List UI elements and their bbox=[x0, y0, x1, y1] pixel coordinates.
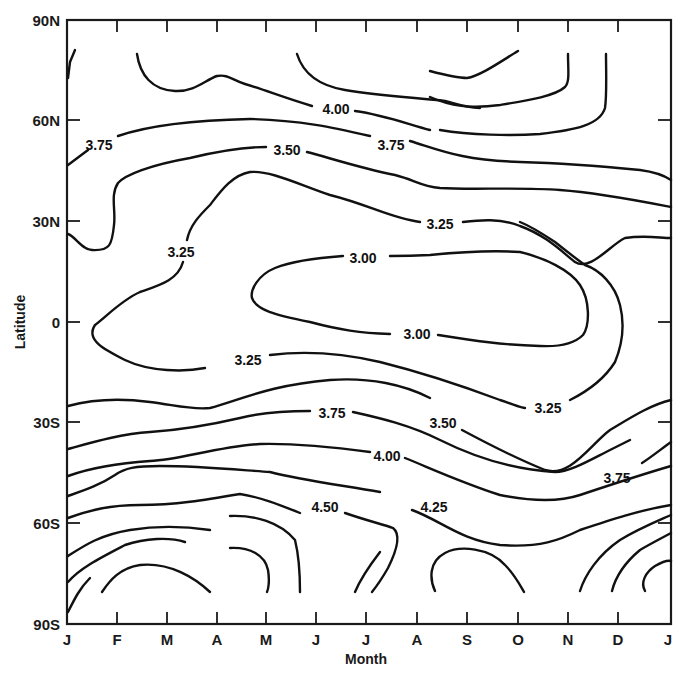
svg-text:60N: 60N bbox=[32, 112, 60, 129]
svg-text:S: S bbox=[462, 631, 472, 648]
svg-text:J: J bbox=[362, 631, 370, 648]
svg-text:3.25: 3.25 bbox=[234, 352, 261, 368]
x-tick-labels: J F M A M J J A S O N D J bbox=[63, 631, 672, 648]
svg-text:90S: 90S bbox=[33, 616, 60, 633]
svg-text:90N: 90N bbox=[32, 12, 60, 29]
svg-text:3.00: 3.00 bbox=[403, 326, 430, 342]
y-ticks bbox=[67, 120, 671, 523]
svg-text:3.00: 3.00 bbox=[349, 250, 376, 266]
plot-frame bbox=[67, 20, 671, 624]
svg-text:3.75: 3.75 bbox=[85, 137, 112, 153]
svg-text:30N: 30N bbox=[32, 213, 60, 230]
svg-text:O: O bbox=[512, 631, 524, 648]
svg-text:3.75: 3.75 bbox=[603, 470, 630, 486]
svg-text:M: M bbox=[260, 631, 273, 648]
svg-text:60S: 60S bbox=[33, 515, 60, 532]
svg-text:A: A bbox=[212, 631, 223, 648]
svg-text:3.25: 3.25 bbox=[426, 216, 453, 232]
svg-text:F: F bbox=[112, 631, 121, 648]
svg-text:4.25: 4.25 bbox=[420, 499, 447, 515]
svg-text:J: J bbox=[312, 631, 320, 648]
svg-text:D: D bbox=[613, 631, 624, 648]
svg-text:M: M bbox=[161, 631, 174, 648]
x-axis-title: Month bbox=[345, 651, 387, 667]
svg-text:3.75: 3.75 bbox=[318, 405, 345, 421]
svg-text:3.25: 3.25 bbox=[167, 244, 194, 260]
svg-text:3.50: 3.50 bbox=[429, 415, 456, 431]
contour-lines bbox=[68, 50, 671, 612]
svg-text:J: J bbox=[664, 631, 672, 648]
svg-text:30S: 30S bbox=[33, 414, 60, 431]
svg-text:3.50: 3.50 bbox=[273, 142, 300, 158]
svg-text:4.00: 4.00 bbox=[373, 448, 400, 464]
svg-text:N: N bbox=[563, 631, 574, 648]
svg-text:3.75: 3.75 bbox=[377, 137, 404, 153]
y-axis-title: Latitude bbox=[12, 295, 28, 350]
x-ticks bbox=[117, 20, 618, 624]
svg-text:0: 0 bbox=[52, 314, 60, 331]
y-tick-labels: 90N 60N 30N 0 30S 60S 90S bbox=[32, 12, 60, 633]
svg-text:4.00: 4.00 bbox=[322, 101, 349, 117]
svg-text:3.25: 3.25 bbox=[534, 400, 561, 416]
svg-text:4.50: 4.50 bbox=[311, 499, 338, 515]
contour-chart: J F M A M J J A S O N D J 90N 60N 30N 0 … bbox=[0, 0, 685, 676]
svg-text:A: A bbox=[412, 631, 423, 648]
svg-text:J: J bbox=[63, 631, 71, 648]
